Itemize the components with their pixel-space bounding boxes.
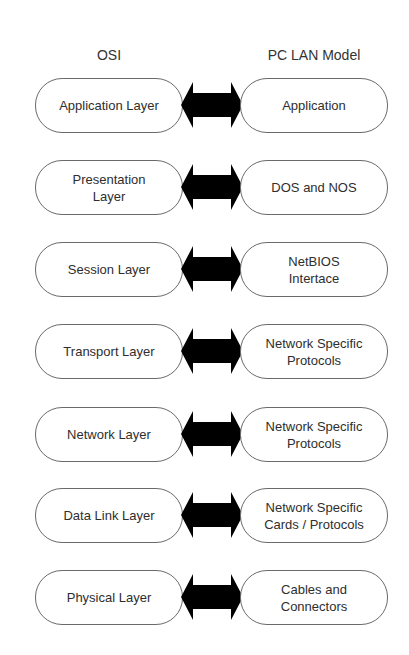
osi-layer-label: Transport Layer	[63, 343, 154, 360]
mapping-row-application: Application Layer Application	[0, 78, 409, 133]
osi-layer-label: Physical Layer	[67, 589, 152, 606]
double-arrow-icon	[181, 246, 243, 292]
pclan-component-label: Cables and Connectors	[281, 581, 347, 615]
osi-column-header: OSI	[35, 47, 183, 63]
osi-layer-label: Data Link Layer	[63, 507, 154, 524]
pclan-component-network-protocols: Network Specific Protocols	[240, 407, 388, 462]
osi-layer-physical: Physical Layer	[35, 570, 183, 625]
double-arrow-icon	[181, 574, 243, 620]
mapping-row-presentation: Presentation Layer DOS and NOS	[0, 160, 409, 215]
pclan-component-label: Network Specific Protocols	[266, 335, 363, 369]
double-arrow-icon	[181, 164, 243, 210]
pc-lan-model-column-header: PC LAN Model	[240, 47, 388, 63]
pclan-component-netbios: NetBIOS Intertace	[240, 242, 388, 297]
osi-layer-label: Session Layer	[68, 261, 150, 278]
pclan-component-cards-protocols: Network Specific Cards / Protocols	[240, 488, 388, 543]
double-arrow-icon	[181, 492, 243, 538]
osi-layer-data-link: Data Link Layer	[35, 488, 183, 543]
double-arrow-icon	[181, 328, 243, 374]
double-arrow-icon	[181, 411, 243, 457]
mapping-row-session: Session Layer NetBIOS Intertace	[0, 242, 409, 297]
mapping-row-physical: Physical Layer Cables and Connectors	[0, 570, 409, 625]
double-arrow-icon	[181, 82, 243, 128]
pclan-component-network-protocols: Network Specific Protocols	[240, 324, 388, 379]
pclan-component-label: Network Specific Protocols	[266, 418, 363, 452]
osi-layer-label: Application Layer	[59, 97, 159, 114]
osi-layer-session: Session Layer	[35, 242, 183, 297]
osi-layer-presentation: Presentation Layer	[35, 160, 183, 215]
osi-layer-label: Presentation Layer	[73, 171, 146, 205]
osi-layer-network: Network Layer	[35, 407, 183, 462]
pclan-component-dos-nos: DOS and NOS	[240, 160, 388, 215]
pclan-component-label: Network Specific Cards / Protocols	[264, 499, 364, 533]
osi-layer-label: Network Layer	[67, 426, 151, 443]
mapping-row-network: Network Layer Network Specific Protocols	[0, 407, 409, 462]
mapping-row-data-link: Data Link Layer Network Specific Cards /…	[0, 488, 409, 543]
pclan-component-label: NetBIOS Intertace	[288, 253, 339, 287]
pclan-component-label: DOS and NOS	[271, 179, 356, 196]
mapping-row-transport: Transport Layer Network Specific Protoco…	[0, 324, 409, 379]
osi-layer-application: Application Layer	[35, 78, 183, 133]
pclan-component-application: Application	[240, 78, 388, 133]
pclan-component-label: Application	[282, 97, 346, 114]
osi-layer-transport: Transport Layer	[35, 324, 183, 379]
pclan-component-cables-connectors: Cables and Connectors	[240, 570, 388, 625]
